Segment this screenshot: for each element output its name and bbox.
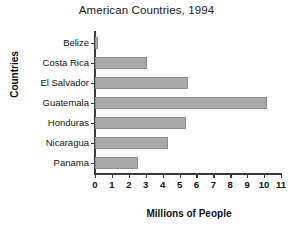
bar: [95, 97, 267, 109]
category-label: Honduras: [48, 113, 89, 133]
bar: [95, 137, 168, 149]
x-axis-tick-label: 6: [194, 179, 199, 190]
category-label: Belize: [63, 33, 89, 53]
x-axis-tick: [196, 173, 197, 178]
x-axis-tick: [281, 173, 282, 178]
bar: [95, 117, 186, 129]
x-axis-tick: [264, 173, 265, 178]
x-axis-tick-label: 9: [245, 179, 250, 190]
category-label: Nicaragua: [46, 133, 89, 153]
x-axis-tick-label: 0: [92, 179, 97, 190]
x-axis-tick: [112, 173, 113, 178]
x-axis-label: Millions of People: [95, 208, 283, 219]
x-axis-tick-label: 4: [160, 179, 165, 190]
x-axis-tick-label: 3: [143, 179, 148, 190]
chart-title: American Countries, 1994: [0, 4, 293, 16]
category-label: Panama: [54, 153, 89, 173]
x-axis-tick: [180, 173, 181, 178]
x-axis-tick-label: 2: [126, 179, 131, 190]
plot-area: BelizeCosta RicaEl SalvadorGuatemalaHond…: [95, 33, 281, 173]
bar-chart: American Countries, 1994 Countries Beliz…: [0, 0, 293, 228]
x-axis-tick-label: 5: [177, 179, 182, 190]
bar: [95, 37, 98, 49]
x-axis-tick: [247, 173, 248, 178]
x-axis-tick: [213, 173, 214, 178]
x-axis-tick: [163, 173, 164, 178]
bar: [95, 157, 138, 169]
bar: [95, 77, 188, 89]
category-label: Guatemala: [43, 93, 89, 113]
category-label: El Salvador: [40, 73, 89, 93]
x-axis-line: [94, 173, 282, 175]
x-axis-tick: [146, 173, 147, 178]
x-axis-tick: [95, 173, 96, 178]
category-label: Costa Rica: [43, 53, 89, 73]
x-axis-tick-label: 11: [276, 179, 286, 190]
x-axis-tick-label: 10: [259, 179, 270, 190]
x-axis-tick-label: 8: [228, 179, 233, 190]
y-axis-label: Countries: [9, 25, 20, 125]
x-axis-tick-label: 1: [109, 179, 114, 190]
x-axis-tick: [129, 173, 130, 178]
bar: [95, 57, 147, 69]
x-axis-tick-label: 7: [211, 179, 216, 190]
x-axis-tick: [230, 173, 231, 178]
